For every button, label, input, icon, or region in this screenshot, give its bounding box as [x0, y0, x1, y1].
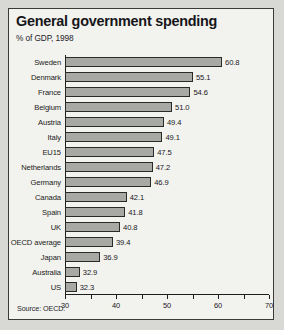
bar-value-label: 36.9: [103, 250, 117, 265]
category-label: Netherlands: [21, 160, 61, 175]
category-label: OECD average: [11, 235, 61, 250]
x-axis-tick-label: 60: [214, 301, 222, 310]
bar: [65, 222, 120, 232]
x-axis-tick: [218, 295, 219, 299]
bar-value-label: 49.1: [165, 130, 179, 145]
bar-value-label: 51.0: [175, 100, 189, 115]
x-axis-tick: [91, 295, 92, 299]
x-axis-tick-label: 40: [112, 301, 120, 310]
bar-row: Sweden60.8: [65, 55, 269, 70]
bar: [65, 282, 77, 292]
bar: [65, 162, 153, 172]
bar: [65, 192, 127, 202]
bar: [65, 237, 113, 247]
chart-figure: General government spending % of GDP, 19…: [8, 8, 274, 320]
bar: [65, 132, 162, 142]
bar-value-label: 54.6: [193, 85, 207, 100]
bar-row: Japan36.9: [65, 250, 269, 265]
chart-subtitle: % of GDP, 1998: [16, 33, 267, 43]
category-label: Spain: [42, 205, 61, 220]
category-label: US: [51, 280, 61, 295]
bar: [65, 147, 154, 157]
bar-value-label: 42.1: [130, 190, 144, 205]
category-label: Belgium: [34, 100, 61, 115]
plot-area: Sweden60.8Denmark55.1France54.6Belgium51…: [65, 55, 269, 295]
bar-row: France54.6: [65, 85, 269, 100]
bar: [65, 72, 193, 82]
category-label: Italy: [48, 130, 61, 145]
bar: [65, 57, 222, 67]
x-axis-tick: [244, 295, 245, 299]
bar-value-label: 55.1: [196, 70, 210, 85]
category-label: Austria: [38, 115, 61, 130]
bar-row: Italy49.1: [65, 130, 269, 145]
bar-value-label: 60.8: [225, 55, 239, 70]
category-label: Sweden: [34, 55, 61, 70]
bar-row: Belgium51.0: [65, 100, 269, 115]
category-label: EU15: [42, 145, 61, 160]
bar-row: Denmark55.1: [65, 70, 269, 85]
bar: [65, 177, 151, 187]
x-axis-tick-label: 70: [265, 301, 273, 310]
category-label: Australia: [32, 265, 61, 280]
bar: [65, 252, 100, 262]
bar-value-label: 39.4: [116, 235, 130, 250]
bar-value-label: 41.8: [128, 205, 142, 220]
bar-row: Spain41.8: [65, 205, 269, 220]
bar-value-label: 32.9: [83, 265, 97, 280]
x-axis-tick-label: 50: [163, 301, 171, 310]
bar-row: Austria49.4: [65, 115, 269, 130]
bar-value-label: 32.3: [80, 280, 94, 295]
x-axis-tick: [167, 295, 168, 299]
bar-value-label: 47.5: [157, 145, 171, 160]
bar-row: OECD average39.4: [65, 235, 269, 250]
category-label: UK: [51, 220, 61, 235]
bar-value-label: 47.2: [156, 160, 170, 175]
bar-row: Germany46.9: [65, 175, 269, 190]
bar-row: Netherlands47.2: [65, 160, 269, 175]
bar: [65, 87, 190, 97]
bar-row: UK40.8: [65, 220, 269, 235]
bar: [65, 207, 125, 217]
bar-value-label: 40.8: [123, 220, 137, 235]
bar-row: Canada42.1: [65, 190, 269, 205]
category-label: France: [38, 85, 61, 100]
x-axis-tick: [193, 295, 194, 299]
x-axis-tick: [65, 295, 66, 299]
bar: [65, 117, 164, 127]
x-axis-tick: [269, 295, 270, 299]
category-label: Japan: [41, 250, 61, 265]
chart-header: General government spending % of GDP, 19…: [16, 14, 267, 43]
x-axis-tick: [116, 295, 117, 299]
category-label: Denmark: [31, 70, 61, 85]
bar-row: US32.3: [65, 280, 269, 295]
bar-value-label: 49.4: [167, 115, 181, 130]
x-axis-tick: [142, 295, 143, 299]
chart-title: General government spending: [16, 14, 267, 30]
category-label: Canada: [35, 190, 61, 205]
category-label: Germany: [30, 175, 61, 190]
bar-row: EU1547.5: [65, 145, 269, 160]
bar-value-label: 46.9: [154, 175, 168, 190]
bar: [65, 267, 80, 277]
source-note: Source: OECD.: [17, 304, 65, 313]
bar: [65, 102, 172, 112]
bar-row: Australia32.9: [65, 265, 269, 280]
